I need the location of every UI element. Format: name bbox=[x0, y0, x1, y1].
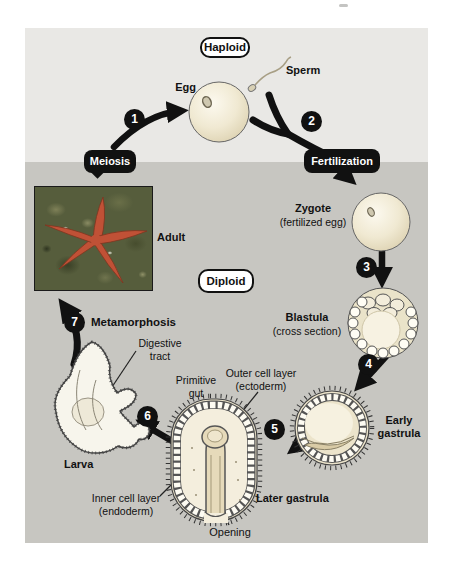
opening-label: Opening bbox=[195, 526, 265, 539]
early-gastrula-label-line2: gastrula bbox=[369, 427, 429, 440]
meiosis-bubble: Meiosis bbox=[84, 150, 136, 173]
sea-star-image bbox=[35, 187, 152, 290]
step-badge-3: 3 bbox=[356, 257, 377, 278]
digestive-tract-label-line1: Digestive bbox=[125, 337, 195, 350]
step-badge-6: 6 bbox=[137, 406, 158, 427]
early-gastrula-label-line1: Early bbox=[369, 414, 429, 427]
later-gastrula-label: Later gastrula bbox=[256, 492, 329, 505]
zygote-sublabel: (fertilized egg) bbox=[263, 216, 363, 229]
endoderm-sublabel: (endoderm) bbox=[86, 505, 166, 518]
step-badge-2: 2 bbox=[301, 111, 322, 132]
page-artifact bbox=[339, 4, 348, 7]
adult-label: Adult bbox=[157, 231, 185, 244]
step-badge-4: 4 bbox=[358, 354, 379, 375]
blastula-label: Blastula bbox=[257, 311, 357, 324]
metamorphosis-label: Metamorphosis bbox=[91, 316, 176, 329]
step-badge-5: 5 bbox=[264, 419, 285, 440]
adult-photo bbox=[34, 186, 153, 291]
digestive-tract-label-line2: tract bbox=[125, 350, 195, 363]
sperm-label: Sperm bbox=[286, 64, 320, 77]
larva-label: Larva bbox=[64, 458, 93, 471]
ectoderm-sublabel: (ectoderm) bbox=[216, 380, 306, 393]
zygote-label: Zygote bbox=[263, 202, 363, 215]
diploid-pill: Diploid bbox=[198, 269, 254, 293]
sea-star-life-cycle-figure: Haploid Diploid Meiosis Fertilization 1 … bbox=[0, 0, 449, 568]
inner-cell-layer-label: Inner cell layer bbox=[86, 492, 166, 505]
blastula-sublabel: (cross section) bbox=[257, 325, 357, 338]
step-badge-7: 7 bbox=[64, 312, 85, 333]
egg-label: Egg bbox=[158, 81, 196, 94]
step-badge-1: 1 bbox=[124, 109, 145, 130]
outer-cell-layer-label: Outer cell layer bbox=[216, 367, 306, 380]
haploid-pill: Haploid bbox=[200, 37, 250, 58]
fertilization-bubble: Fertilization bbox=[304, 149, 380, 173]
